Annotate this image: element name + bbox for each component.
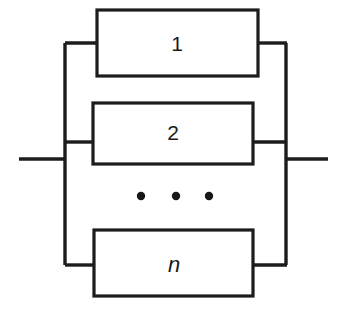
block-label-n: n <box>168 252 180 277</box>
block-label-2: 2 <box>167 121 179 144</box>
ellipsis-dot-2 <box>172 192 180 200</box>
ellipsis-dot-1 <box>137 192 145 200</box>
ellipsis-dot-3 <box>205 192 213 200</box>
diagram-canvas: 1 2 n <box>0 0 343 312</box>
block-label-1: 1 <box>171 32 183 55</box>
parallel-block-diagram: 1 2 n <box>0 0 343 312</box>
